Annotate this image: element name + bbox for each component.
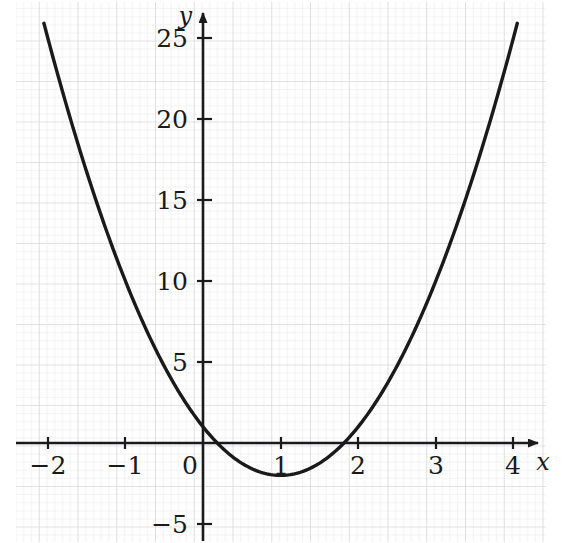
x-tick-label--2: −2 [30,451,67,480]
y-tick-label-20: 20 [156,105,188,134]
graph-page: −2 −1 0 1 2 3 4 25 20 15 10 5 −5 y x [0,0,563,543]
y-tick-label-15: 15 [156,186,188,215]
coordinate-graph: −2 −1 0 1 2 3 4 25 20 15 10 5 −5 y x [0,0,563,543]
y-tick-label-10: 10 [156,267,188,296]
x-tick-label-2: 2 [350,451,366,480]
y-axis-label: y [177,2,192,30]
y-tick-label-5: 5 [172,348,188,377]
y-tick-label--5: −5 [151,510,188,539]
x-tick-label--1: −1 [107,451,144,480]
x-tick-label-4: 4 [505,451,521,480]
x-tick-label-0: 0 [182,451,198,480]
x-tick-label-3: 3 [428,451,444,480]
x-axis-label: x [536,448,550,476]
